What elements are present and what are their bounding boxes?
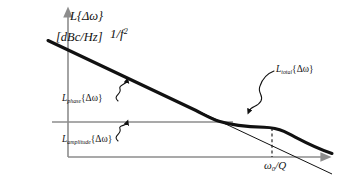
phase-noise-label: Lphase{Δω} (62, 94, 103, 104)
slope-region-label: 1/f2 (110, 27, 128, 40)
amplitude-noise-label: Lamplitude{Δω} (62, 135, 112, 145)
phase-noise-plot-svg (0, 0, 346, 179)
y-axis-label-units: [dBc/Hz] (56, 31, 103, 44)
amplitude-label-pointer (116, 123, 127, 141)
y-axis-label-primary: L{Δω} (70, 10, 103, 23)
phase-noise-figure: L{Δω} [dBc/Hz] 1/f2 Lphase{Δω} Lamplitud… (0, 0, 346, 179)
total-noise-label: Ltotal{Δω} (276, 65, 314, 75)
phase-label-pointer (116, 81, 127, 101)
total-label-pointer (249, 71, 274, 111)
omega0-over-q-label: ω0/Q (264, 160, 286, 171)
